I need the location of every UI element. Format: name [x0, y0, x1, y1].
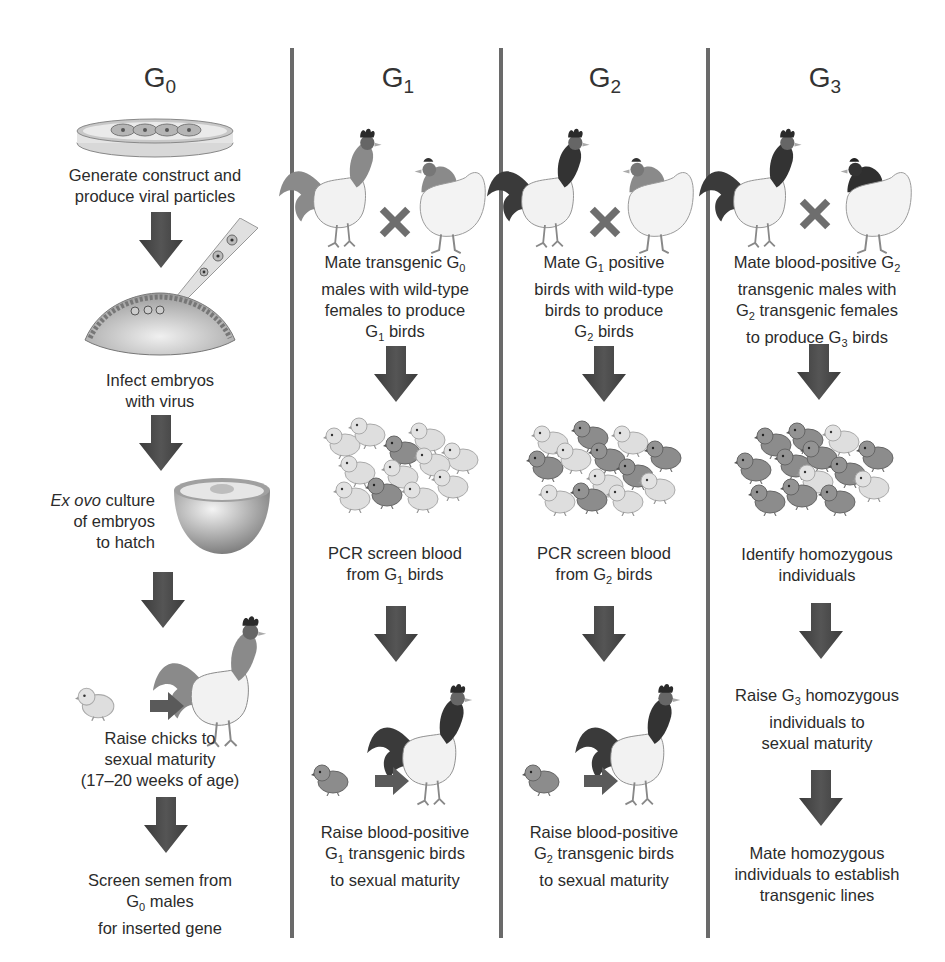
step-mate-g0: Mate transgenic G0 males with wild-type …	[300, 252, 490, 348]
rooster-icon	[690, 125, 815, 250]
rooster-icon	[478, 125, 603, 250]
step-infect-embryos: Infect embryos with virus	[60, 370, 260, 412]
arrow-down-icon	[144, 797, 188, 853]
chick-icon	[311, 762, 351, 796]
chick-group-g1	[323, 415, 483, 515]
arrow-right-icon	[150, 692, 184, 720]
cross-icon	[378, 205, 412, 239]
arrow-down-icon	[374, 606, 418, 662]
step-pcr-g2: PCR screen blood from G2 birds	[508, 543, 700, 591]
step-establish-lines: Mate homozygous individuals to establish…	[712, 843, 922, 906]
cross-icon	[798, 197, 832, 231]
step-mate-g1: Mate G1 positive birds with wild-type bi…	[508, 252, 700, 348]
step-raise-g1: Raise blood-positive G1 transgenic birds…	[300, 822, 490, 891]
arrow-down-icon	[582, 346, 626, 402]
ex-ovo-bowl-icon	[172, 474, 272, 556]
chick-group-g3	[734, 420, 899, 520]
step-generate-construct: Generate construct and produce viral par…	[40, 165, 270, 207]
column-title-g0: G0	[100, 62, 220, 98]
embryo-injection-icon	[80, 288, 240, 360]
step-mate-g2: Mate blood-positive G2 transgenic males …	[712, 252, 922, 354]
arrow-down-icon	[139, 415, 183, 471]
hen-icon	[826, 148, 918, 256]
step-raise-g3: Raise G3 homozygous individuals to sexua…	[712, 685, 922, 754]
cross-icon	[588, 205, 622, 239]
chick-group-g2	[526, 418, 686, 518]
arrow-down-icon	[799, 603, 843, 659]
petri-dish-icon	[75, 115, 235, 160]
step-raise-chicks: Raise chicks to sexual maturity (17–20 w…	[55, 728, 265, 791]
rooster-icon	[270, 125, 395, 250]
column-title-g1: G1	[338, 62, 458, 98]
column-title-g3: G3	[765, 62, 885, 98]
step-raise-g2: Raise blood-positive G2 transgenic birds…	[508, 822, 700, 891]
arrow-right-icon	[584, 767, 618, 795]
column-title-g2: G2	[545, 62, 665, 98]
step-identify-homozygous: Identify homozygous individuals	[712, 544, 922, 586]
step-screen-semen: Screen semen from G0 males for inserted …	[55, 870, 265, 939]
chick-icon	[522, 762, 562, 796]
arrow-down-icon	[797, 344, 841, 400]
arrow-down-icon	[374, 346, 418, 402]
arrow-down-icon	[799, 770, 843, 826]
step-pcr-g1: PCR screen blood from G1 birds	[300, 543, 490, 591]
arrow-right-icon	[375, 767, 409, 795]
hen-icon	[608, 148, 700, 256]
chick-icon	[75, 685, 117, 721]
step-ex-ovo-culture: Ex ovo culture of embryos to hatch	[30, 490, 155, 553]
arrow-down-icon	[582, 606, 626, 662]
